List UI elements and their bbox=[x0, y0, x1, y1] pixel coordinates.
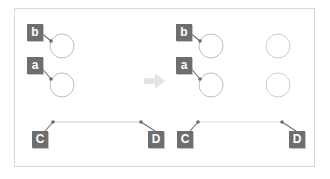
diagram-frame bbox=[14, 8, 315, 167]
screenshot-root: b a C D b a C D bbox=[0, 0, 330, 179]
label-box-a-after[interactable]: a bbox=[176, 57, 192, 74]
label-box-c-before[interactable]: C bbox=[32, 131, 48, 148]
label-box-d-before[interactable]: D bbox=[148, 131, 164, 148]
label-box-c-after[interactable]: C bbox=[177, 131, 193, 148]
label-box-b-after[interactable]: b bbox=[176, 24, 192, 41]
label-box-a-before[interactable]: a bbox=[27, 57, 43, 74]
label-box-b-before[interactable]: b bbox=[27, 24, 43, 41]
label-box-d-after[interactable]: D bbox=[289, 131, 305, 148]
